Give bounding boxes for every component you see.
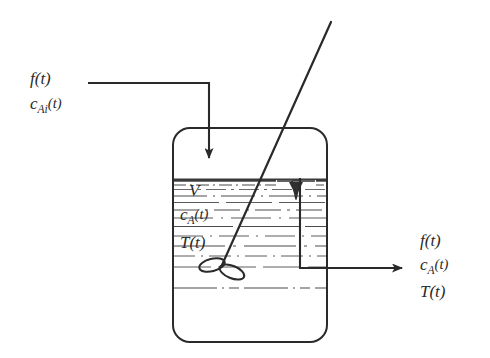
tank-concentration-subscript: A bbox=[188, 214, 195, 227]
figure-canvas: f(t) cAi(t) V cA(t) T(t) f(t) cA(t) T(t) bbox=[0, 0, 490, 358]
outlet-concentration-subscript: A bbox=[428, 264, 435, 277]
vortex bbox=[276, 180, 316, 200]
tank-volume-label: V bbox=[189, 182, 199, 199]
outlet-temperature-label: T(t) bbox=[420, 283, 446, 300]
inlet-concentration-base: c bbox=[30, 94, 38, 113]
tank-concentration-base: c bbox=[180, 205, 188, 224]
inlet-concentration-label: cAi(t) bbox=[30, 95, 62, 115]
outlet-flow-label: f(t) bbox=[420, 232, 441, 249]
inlet-concentration-subscript: Ai bbox=[38, 103, 48, 116]
outlet-pipe bbox=[300, 178, 402, 268]
inlet-flow-label: f(t) bbox=[30, 70, 51, 87]
tank-temperature-label: T(t) bbox=[180, 234, 206, 251]
outlet-concentration-base: c bbox=[420, 255, 428, 274]
tank-concentration-argument: (t) bbox=[195, 206, 209, 222]
outlet-concentration-label: cA(t) bbox=[420, 256, 448, 276]
inlet-pipe bbox=[88, 83, 209, 158]
impeller bbox=[198, 256, 246, 283]
outlet-concentration-argument: (t) bbox=[435, 256, 449, 272]
cstr-diagram bbox=[0, 0, 490, 358]
agitator-shaft bbox=[222, 22, 331, 265]
tank-concentration-label: cA(t) bbox=[180, 206, 208, 226]
inlet-concentration-argument: (t) bbox=[48, 95, 62, 111]
impeller-blade-right bbox=[218, 261, 247, 282]
